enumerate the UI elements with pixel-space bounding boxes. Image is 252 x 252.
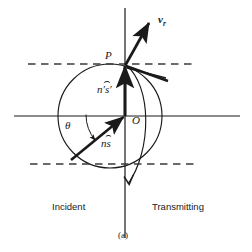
angle-theta-label: θ — [65, 120, 70, 131]
point-p-label: P — [105, 50, 112, 61]
refracted-ray-label: n′s′ — [97, 84, 112, 95]
incident-vector-ns — [71, 117, 124, 160]
optics-refraction-figure: vr P n′s′ θ ns O Incident Transmitting (… — [0, 0, 252, 252]
angle-arc-theta — [86, 115, 96, 141]
incident-ray-label: ns — [101, 138, 111, 149]
point-o-label: O — [132, 115, 140, 126]
reflected-vector-vr — [126, 23, 150, 65]
s-hat-glyph-2: s — [107, 138, 111, 149]
reflected-vector-label: vr — [158, 14, 166, 28]
transmitting-region-label: Transmitting — [152, 202, 204, 212]
incident-region-label: Incident — [52, 202, 85, 212]
panel-label: (a) — [118, 231, 128, 240]
s-hat-glyph: s — [105, 84, 109, 95]
diagram-canvas — [0, 0, 252, 252]
